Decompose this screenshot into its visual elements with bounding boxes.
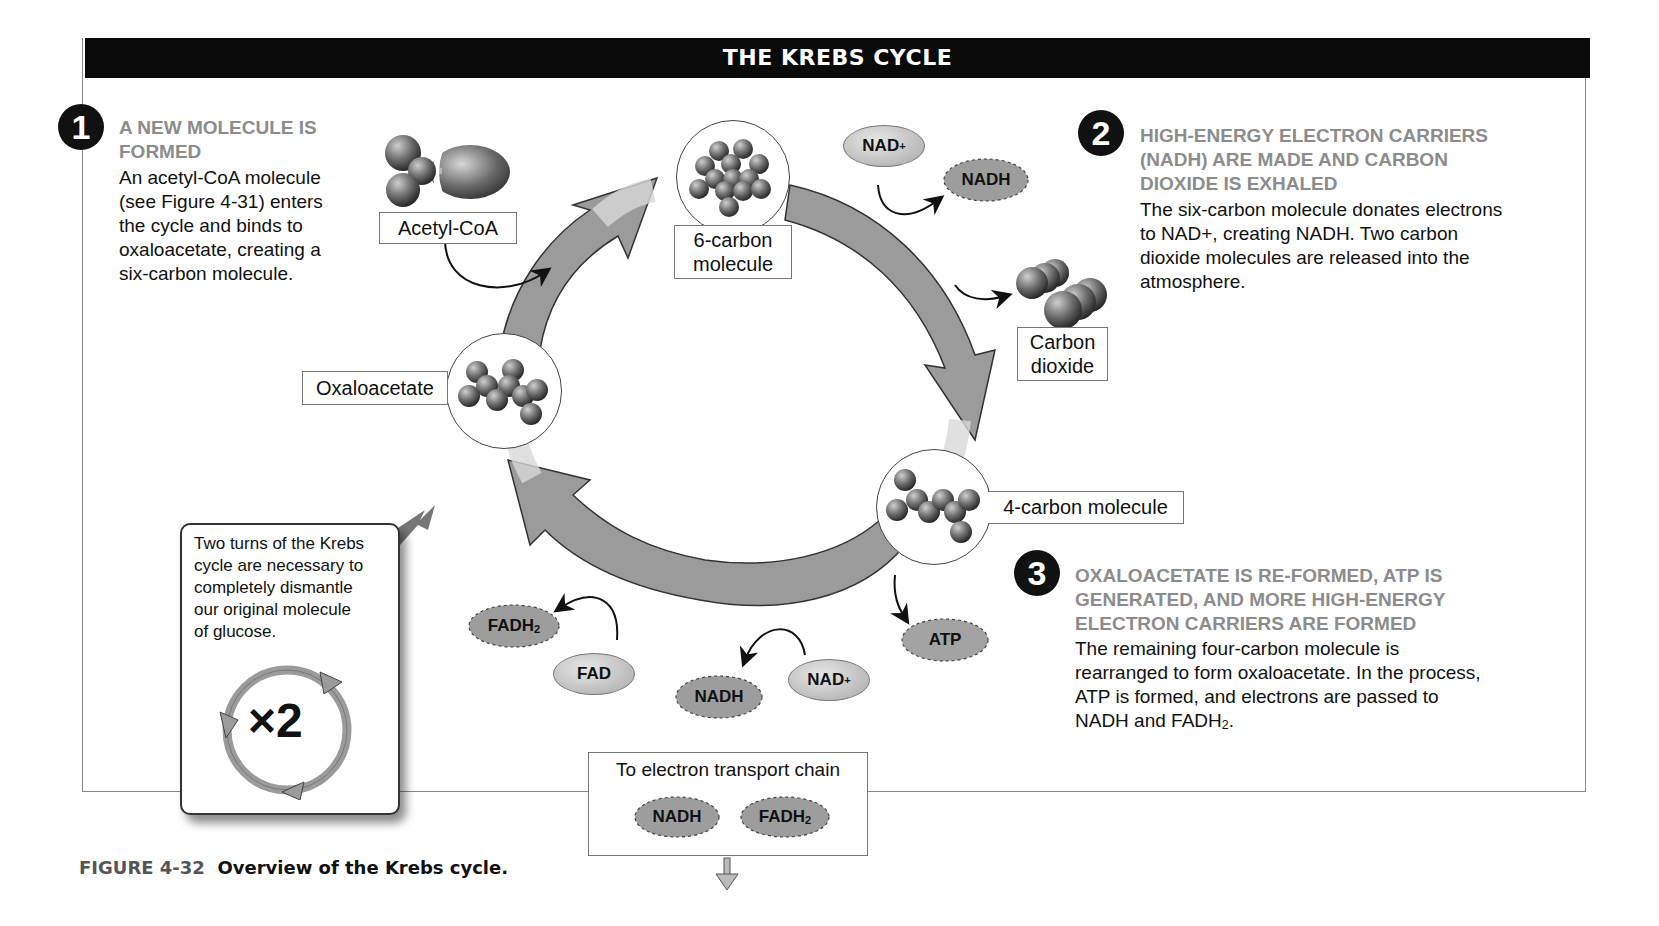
acetyl-coa-molecule-icon [385,135,510,207]
four-carbon-label: 4-carbon molecule [988,491,1184,524]
fad-oval: FAD [553,653,635,695]
electron-transport-box: To electron transport chain NADH FADH2 [588,752,868,856]
six-carbon-molecule-circle [676,120,790,234]
four-carbon-molecule-circle [876,449,992,565]
etc-fadh2-burst: FADH2 [737,793,833,841]
acetyl-coa-label: Acetyl-CoA [379,212,517,244]
step-2-body: The six-carbon molecule donates electron… [1140,198,1560,294]
step-1-heading: A NEW MOLECULE IS FORMED [119,116,379,164]
step-2-heading: HIGH-ENERGY ELECTRON CARRIERS (NADH) ARE… [1140,124,1560,196]
nad-plus-bottom-oval: NAD+ [788,659,870,701]
step-1-badge: 1 [58,104,104,150]
step-2-badge: 2 [1078,110,1124,156]
figure-caption: FIGURE 4-32 Overview of the Krebs cycle. [79,857,508,878]
step-3-body: The remaining four-carbon molecule is re… [1075,637,1545,737]
step-3-heading: OXALOACETATE IS RE-FORMED, ATP IS GENERA… [1075,564,1535,636]
nadh-bottom-burst: NADH [672,672,766,722]
fadh2-left-burst: FADH2 [465,601,563,651]
step-1-body: An acetyl-CoA molecule (see Figure 4-31)… [119,166,369,286]
carbon-dioxide-molecules-icon [1016,259,1107,329]
step-3-badge: 3 [1014,550,1060,596]
nad-plus-top-oval: NAD+ [843,125,925,167]
atp-burst: ATP [898,615,992,665]
multiplier-label: ×2 [248,693,303,748]
oxaloacetate-label: Oxaloacetate [302,371,448,405]
carbon-dioxide-label: Carbon dioxide [1017,327,1108,381]
down-arrow-icon [716,858,738,890]
electron-transport-label: To electron transport chain [589,759,867,781]
six-carbon-label: 6-carbon molecule [674,225,792,279]
etc-nadh-burst: NADH [631,793,723,841]
nadh-top-burst: NADH [940,155,1032,205]
two-turns-note: Two turns of the Krebs cycle are necessa… [180,523,400,815]
oxaloacetate-molecule-circle [446,333,562,449]
